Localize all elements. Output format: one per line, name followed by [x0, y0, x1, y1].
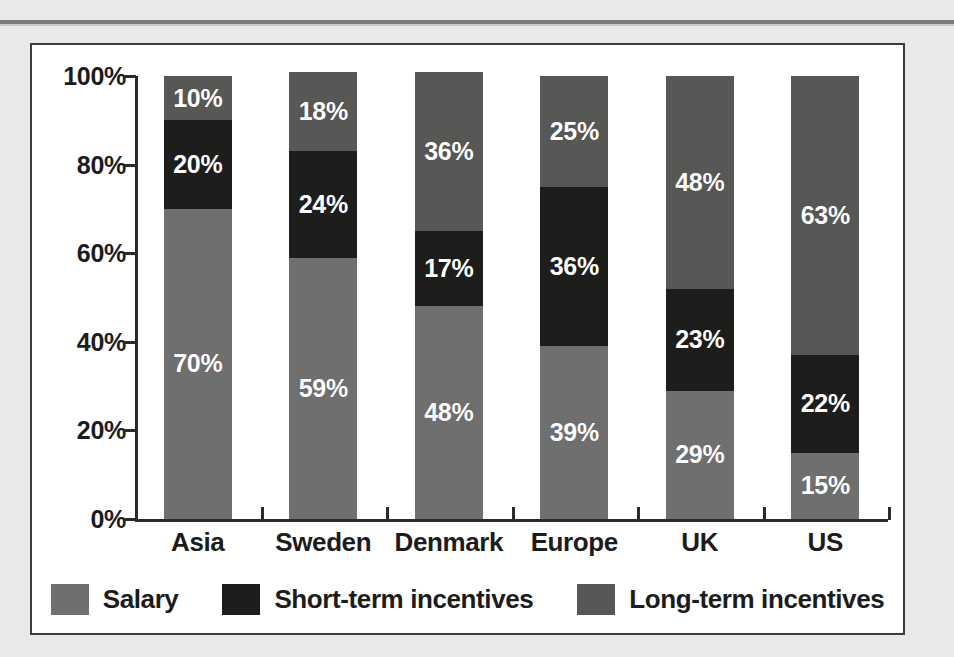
bar-segment[interactable]: 15% [791, 453, 859, 519]
y-axis-tick-mark [124, 341, 136, 344]
bars-layer: 70%20%10%Asia59%24%18%Sweden48%17%36%Den… [32, 45, 903, 633]
bar-segment-value-label: 39% [550, 420, 599, 445]
bar-segment-value-label: 23% [675, 327, 724, 352]
bar-segment[interactable]: 70% [164, 209, 232, 519]
bar-group[interactable]: 29%23%48% [666, 76, 734, 519]
x-axis-tick-mark [637, 507, 640, 520]
x-axis-category-label: Sweden [261, 527, 387, 558]
page-background: 0%20%40%60%80%100% 70%20%10%Asia59%24%18… [0, 0, 954, 657]
legend-item[interactable]: Short-term incentives [222, 584, 533, 615]
y-axis-tick-mark [124, 164, 136, 167]
y-axis-end-tick [124, 518, 136, 521]
bar-segment-value-label: 48% [675, 170, 724, 195]
bar-segment-value-label: 29% [675, 442, 724, 467]
bar-segment-value-label: 36% [550, 254, 599, 279]
bar-segment[interactable]: 48% [666, 76, 734, 289]
page-top-rule-highlight [0, 24, 954, 26]
x-axis-tick-mark [763, 507, 766, 520]
bar-segment-value-label: 10% [173, 86, 222, 111]
bar-segment-value-label: 15% [801, 473, 850, 498]
chart-panel: 0%20%40%60%80%100% 70%20%10%Asia59%24%18… [30, 43, 905, 635]
bar-segment-value-label: 24% [299, 192, 348, 217]
bar-segment[interactable]: 39% [540, 346, 608, 519]
legend-swatch [577, 584, 615, 615]
plot-area: 0%20%40%60%80%100% 70%20%10%Asia59%24%18… [32, 45, 903, 633]
y-axis-end-tick [124, 75, 136, 78]
bar-segment-value-label: 25% [550, 119, 599, 144]
x-axis-tick-mark [386, 507, 389, 520]
x-axis-category-label: Europe [512, 527, 638, 558]
bar-group[interactable]: 15%22%63% [791, 76, 859, 519]
bar-segment[interactable]: 29% [666, 391, 734, 519]
legend-label: Short-term incentives [274, 584, 533, 615]
bar-segment[interactable]: 23% [666, 289, 734, 391]
x-axis-category-label: UK [637, 527, 763, 558]
x-axis-end-tick [888, 507, 891, 520]
x-axis-category-label: Denmark [386, 527, 512, 558]
bar-segment[interactable]: 18% [289, 72, 357, 152]
y-axis-tick-mark [124, 429, 136, 432]
x-axis-tick-mark [261, 507, 264, 520]
bar-segment[interactable]: 48% [415, 306, 483, 519]
legend-swatch [222, 584, 260, 615]
bar-segment-value-label: 20% [173, 152, 222, 177]
legend-item[interactable]: Long-term incentives [577, 584, 884, 615]
y-axis-tick-mark [124, 252, 136, 255]
legend-swatch [51, 584, 89, 615]
x-axis-tick-mark [512, 507, 515, 520]
chart-legend: SalaryShort-term incentivesLong-term inc… [32, 569, 903, 629]
bar-segment[interactable]: 22% [791, 355, 859, 452]
bar-segment[interactable]: 36% [415, 72, 483, 231]
bar-segment-value-label: 70% [173, 351, 222, 376]
bar-segment[interactable]: 25% [540, 76, 608, 187]
legend-label: Salary [103, 584, 179, 615]
bar-segment-value-label: 63% [801, 203, 850, 228]
bar-segment[interactable]: 59% [289, 258, 357, 519]
bar-segment[interactable]: 20% [164, 120, 232, 209]
bar-group[interactable]: 48%17%36% [415, 76, 483, 519]
bar-segment-value-label: 59% [299, 376, 348, 401]
bar-group[interactable]: 70%20%10% [164, 76, 232, 519]
x-axis-category-label: Asia [135, 527, 261, 558]
bar-segment[interactable]: 17% [415, 231, 483, 306]
legend-item[interactable]: Salary [51, 584, 179, 615]
bar-group[interactable]: 59%24%18% [289, 76, 357, 519]
bar-segment-value-label: 22% [801, 391, 850, 416]
legend-label: Long-term incentives [629, 584, 884, 615]
bar-segment-value-label: 17% [424, 256, 473, 281]
x-axis-category-label: US [763, 527, 889, 558]
bar-group[interactable]: 39%36%25% [540, 76, 608, 519]
bar-segment[interactable]: 63% [791, 76, 859, 355]
bar-segment-value-label: 48% [424, 400, 473, 425]
bar-segment[interactable]: 24% [289, 151, 357, 257]
bar-segment-value-label: 18% [299, 99, 348, 124]
bar-segment[interactable]: 10% [164, 76, 232, 120]
bar-segment[interactable]: 36% [540, 187, 608, 346]
bar-segment-value-label: 36% [424, 139, 473, 164]
